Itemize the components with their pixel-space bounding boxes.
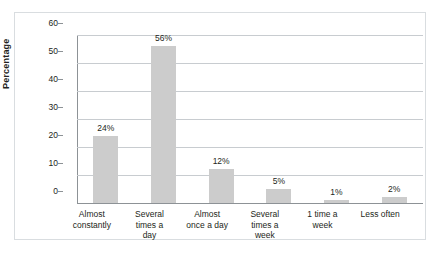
y-tick-20: 20: [25, 135, 58, 136]
gridline-0: [77, 203, 423, 204]
bar-value-label: 5%: [259, 177, 299, 186]
y-tick-label-30: 30: [32, 103, 58, 112]
gridline-20: [77, 147, 423, 148]
bar-value-label: 12%: [201, 157, 241, 166]
y-tick-mark-50: [58, 51, 63, 52]
y-tick-label-50: 50: [32, 47, 58, 56]
y-tick-mark-10: [58, 163, 63, 164]
gridline-40: [77, 91, 423, 92]
y-tick-50: 50: [25, 51, 58, 52]
plot-area: 24%56%12%5%1%2%: [77, 35, 423, 203]
y-tick-mark-40: [58, 79, 63, 80]
y-axis-title: Percentage: [1, 38, 11, 89]
y-tick-10: 10: [25, 163, 58, 164]
bar-value-label: 56%: [144, 34, 184, 43]
y-tick-0: 0: [25, 191, 58, 192]
y-tick-mark-30: [58, 107, 63, 108]
gridline-10: [77, 175, 423, 176]
bar: [266, 189, 291, 203]
bar: [209, 169, 234, 203]
y-tick-label-60: 60: [32, 19, 58, 28]
bar: [93, 136, 118, 203]
bar: [382, 197, 407, 203]
y-tick-label-40: 40: [32, 75, 58, 84]
chart-screenshot: Percentage 0102030405060 24%56%12%5%1%2%…: [0, 0, 440, 255]
bar: [151, 46, 176, 203]
gridline-50: [77, 63, 423, 64]
y-tick-40: 40: [25, 79, 58, 80]
y-tick-mark-20: [58, 135, 63, 136]
bar-value-label: 1%: [317, 188, 357, 197]
gridline-30: [77, 119, 423, 120]
chart-frame: Percentage 0102030405060 24%56%12%5%1%2%…: [14, 12, 426, 240]
y-tick-mark-0: [58, 191, 63, 192]
bar-value-label: 2%: [374, 185, 414, 194]
gridline-60: [77, 35, 423, 36]
bar-value-label: 24%: [86, 124, 126, 133]
y-tick-label-20: 20: [32, 131, 58, 140]
bar: [324, 200, 349, 203]
y-tick-60: 60: [25, 23, 58, 24]
y-tick-label-0: 0: [32, 187, 58, 196]
y-tick-30: 30: [25, 107, 58, 108]
y-tick-mark-60: [58, 23, 63, 24]
x-axis-category-label: Less often: [346, 209, 414, 220]
y-tick-label-10: 10: [32, 159, 58, 168]
